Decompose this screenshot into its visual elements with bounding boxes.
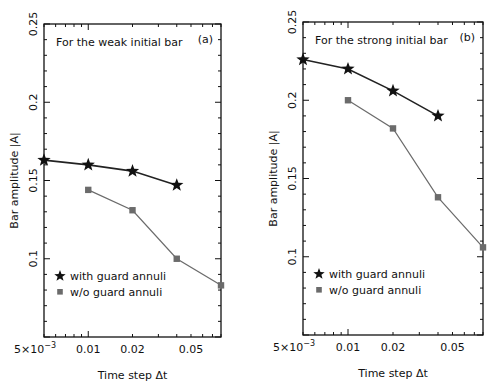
x-tick-label: 0.02 bbox=[381, 341, 406, 354]
square-marker-icon bbox=[480, 244, 486, 250]
series-line-with-guard-annuli bbox=[44, 160, 177, 185]
chart-panel-b: 0.10.150.20.255×10−30.010.020.05Time ste… bbox=[267, 10, 486, 380]
legend-entry-label: with guard annuli bbox=[329, 268, 425, 281]
panel-label: (a) bbox=[198, 33, 213, 46]
square-marker-icon bbox=[390, 125, 396, 131]
legend-entry-label: w/o guard annuli bbox=[70, 286, 162, 299]
x-tick-label: 0.05 bbox=[440, 341, 465, 354]
y-tick-label: 0.1 bbox=[27, 250, 40, 268]
panel-label: (b) bbox=[459, 31, 475, 44]
y-tick-label: 0.25 bbox=[286, 10, 299, 35]
x-tick-label: 0.02 bbox=[120, 343, 145, 356]
star-marker-icon bbox=[431, 109, 444, 122]
legend-star-icon bbox=[313, 268, 324, 279]
star-marker-icon bbox=[126, 164, 139, 177]
x-tick-label: 5×10−3 bbox=[273, 339, 315, 354]
x-tick-label: 5×10−3 bbox=[14, 341, 56, 356]
legend-square-icon bbox=[316, 287, 322, 293]
y-axis-label: Bar amplitude |A| bbox=[8, 132, 21, 228]
legend-square-icon bbox=[57, 289, 63, 295]
y-tick-label: 0.2 bbox=[286, 92, 299, 110]
panel-annotation: For the strong initial bar bbox=[315, 34, 448, 47]
legend-entry-label: w/o guard annuli bbox=[329, 284, 421, 297]
square-marker-icon bbox=[218, 282, 224, 288]
star-marker-icon bbox=[341, 62, 354, 75]
legend-entry-label: with guard annuli bbox=[70, 270, 166, 283]
star-marker-icon bbox=[386, 84, 399, 97]
panel-annotation: For the weak initial bar bbox=[56, 36, 183, 49]
y-tick-label: 0.15 bbox=[286, 166, 299, 191]
chart-panel-a: 0.10.150.20.255×10−30.010.020.05Time ste… bbox=[8, 12, 224, 382]
star-marker-icon bbox=[170, 178, 183, 191]
y-tick-label: 0.2 bbox=[27, 94, 40, 112]
y-tick-label: 0.1 bbox=[286, 248, 299, 266]
square-marker-icon bbox=[435, 194, 441, 200]
x-tick-label: 0.01 bbox=[336, 341, 361, 354]
x-tick-label: 0.01 bbox=[76, 343, 101, 356]
y-axis-label: Bar amplitude |A| bbox=[267, 130, 280, 226]
square-marker-icon bbox=[174, 256, 180, 262]
square-marker-icon bbox=[129, 207, 135, 213]
cropped-caption-line bbox=[0, 378, 491, 389]
series-line-with-guard-annuli bbox=[303, 60, 438, 116]
y-tick-label: 0.25 bbox=[27, 12, 40, 37]
figure-canvas: 0.10.150.20.255×10−30.010.020.05Time ste… bbox=[0, 0, 491, 389]
star-marker-icon bbox=[82, 158, 95, 171]
legend-star-icon bbox=[54, 270, 65, 281]
x-tick-label: 0.05 bbox=[179, 343, 204, 356]
series-line-without-guard-annuli bbox=[348, 100, 483, 247]
square-marker-icon bbox=[85, 187, 91, 193]
y-tick-label: 0.15 bbox=[27, 168, 40, 193]
square-marker-icon bbox=[345, 97, 351, 103]
